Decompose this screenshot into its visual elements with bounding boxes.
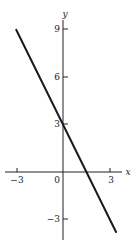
y-tick-label-neg3: −3 <box>47 214 61 224</box>
y-axis-label: y <box>61 9 68 19</box>
x-axis-label: x <box>125 167 130 177</box>
x-tick-label-3: 3 <box>108 175 114 185</box>
line-series <box>16 30 116 232</box>
origin-label: 0 <box>54 175 60 185</box>
x-tick-label-neg3: −3 <box>10 175 24 185</box>
y-tick-label-6: 6 <box>54 72 60 82</box>
y-tick-label-9: 9 <box>54 24 60 34</box>
y-tick-label-3: 3 <box>54 119 60 129</box>
chart: −3 0 3 9 6 3 −3 x y <box>0 0 140 240</box>
